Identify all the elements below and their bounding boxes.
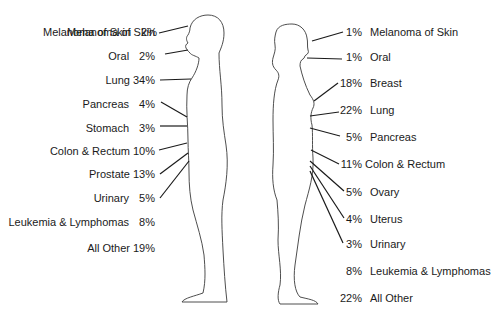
female-pct-colon-rectum: 11% (341, 158, 362, 171)
female-pct-leukemia-lymphomas: 8% (346, 265, 362, 278)
male-pct: 4% (139, 98, 155, 110)
male-row-leukemia-lymphomas: Leukemia & Lymphomas8% (8, 216, 155, 229)
female-name-melanoma: Melanoma of Skin (370, 26, 458, 39)
female-name-pancreas: Pancreas (370, 131, 416, 144)
male-pct: 10% (133, 145, 155, 157)
male-row-prostate: Prostate13% (89, 168, 155, 181)
female-name-urinary: Urinary (370, 238, 405, 251)
male-name: Stomach (86, 122, 129, 134)
male-pct: 2% (141, 26, 157, 38)
female-pct-ovary: 5% (346, 186, 362, 199)
female-pct-lung: 22% (340, 104, 362, 117)
female-pct-breast: 18% (340, 77, 362, 90)
male-row-stomach: Stomach3% (86, 122, 155, 135)
male-row-urinary: Urinary5% (94, 192, 155, 205)
male-row-colon-rectum: Colon & Rectum10% (50, 145, 155, 158)
male-pct: 19% (133, 242, 155, 254)
female-name-breast: Breast (370, 77, 402, 90)
female-name-leukemia-lymphomas: Leukemia & Lymphomas (370, 265, 491, 278)
male-name: Prostate (89, 168, 130, 180)
male-name: Melanoma of Skin (43, 26, 131, 38)
male-name: Urinary (94, 192, 129, 204)
male-row-oral: Oral2% (108, 50, 155, 63)
female-name-colon-rectum: Colon & Rectum (365, 158, 445, 171)
male-name: Lung (105, 74, 129, 86)
female-pct-pancreas: 5% (346, 131, 362, 144)
male-name: Leukemia & Lymphomas (8, 216, 129, 228)
female-name-ovary: Ovary (370, 186, 399, 199)
male-name: Pancreas (83, 98, 129, 110)
male-pct: 2% (139, 50, 155, 62)
cancer-sites-diagram: Melanoma of Skin Melanoma of Skin2% Oral… (0, 0, 496, 314)
male-name: Colon & Rectum (50, 145, 130, 157)
male-body-outline (182, 15, 227, 302)
male-pct: 34% (133, 74, 155, 86)
female-name-lung: Lung (370, 104, 394, 117)
male-row-lung: Lung34% (105, 74, 155, 87)
male-pct: 5% (139, 192, 155, 204)
female-name-uterus: Uterus (370, 213, 402, 226)
female-pct-melanoma: 1% (346, 26, 362, 39)
female-pct-all-other: 22% (340, 292, 362, 305)
female-pct-urinary: 3% (346, 238, 362, 251)
male-name: Oral (108, 50, 129, 62)
male-row-pancreas: Pancreas4% (83, 98, 155, 111)
male-leader-lines (159, 26, 191, 198)
male-name: All Other (87, 242, 130, 254)
female-pct-oral: 1% (346, 51, 362, 64)
male-pct: 3% (139, 122, 155, 134)
male-row-all-other: All Other19% (87, 242, 155, 255)
female-name-all-other: All Other (370, 292, 413, 305)
male-pct: 13% (133, 168, 155, 180)
female-body-outline (272, 24, 318, 304)
male-pct: 8% (139, 216, 155, 228)
female-name-oral: Oral (370, 51, 391, 64)
male-row-melanoma: Melanoma of Skin2% (43, 26, 157, 39)
female-pct-uterus: 4% (346, 213, 362, 226)
